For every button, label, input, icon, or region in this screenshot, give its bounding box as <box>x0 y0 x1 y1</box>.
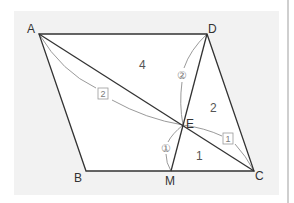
area-label-dec: 2 <box>210 101 217 115</box>
area-label-aed: 4 <box>139 58 146 72</box>
diagram-stage: A D B M C E 4 2 1 2 1 ② ① <box>0 0 294 203</box>
vertex-label-b: B <box>74 171 82 185</box>
vertex-label-c: C <box>255 169 264 183</box>
vertex-label-d: D <box>208 22 217 36</box>
parallelogram-diagram: A D B M C E 4 2 1 2 1 ② ① <box>0 0 294 203</box>
ratio-circled-em: ① <box>161 142 171 154</box>
vertex-label-a: A <box>27 22 35 36</box>
area-label-emc: 1 <box>196 149 203 163</box>
ratio-text-ec: 1 <box>226 134 231 144</box>
vertex-label-m: M <box>165 174 175 188</box>
ratio-text-ae: 2 <box>101 89 106 99</box>
vertex-label-e: E <box>186 117 194 131</box>
ratio-circled-de: ② <box>177 69 187 81</box>
